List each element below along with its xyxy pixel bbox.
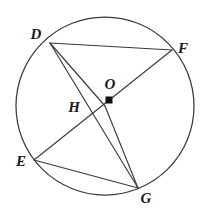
geometry-figure: D F E G H O <box>0 0 206 211</box>
point-label-D: D <box>30 26 42 42</box>
segment-DG <box>50 43 138 188</box>
point-label-H: H <box>67 99 81 115</box>
figure-canvas: D F E G H O <box>0 0 206 211</box>
point-label-F: F <box>177 40 188 56</box>
segment-DO <box>50 43 105 106</box>
center-label-O: O <box>105 76 116 92</box>
center-point-marker <box>106 97 113 104</box>
point-label-E: E <box>15 153 26 169</box>
segment-EG <box>34 160 138 188</box>
point-label-G: G <box>141 190 152 206</box>
segment-DF <box>50 43 172 50</box>
segment-EF <box>34 50 172 160</box>
segment-OG <box>105 106 138 188</box>
